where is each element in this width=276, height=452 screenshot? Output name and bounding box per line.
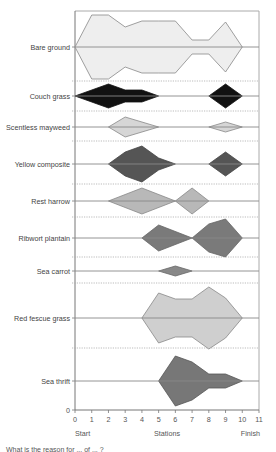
x-tick-label: 0 — [73, 415, 77, 424]
species-label: Couch grass — [30, 92, 71, 101]
x-tick-label: 7 — [190, 415, 194, 424]
x-tick-label: 8 — [207, 415, 211, 424]
kite-diagram: Bare groundCouch grassScentless mayweedY… — [0, 0, 276, 452]
species-label: Sea carrot — [37, 267, 70, 276]
x-tick-label: 5 — [157, 415, 161, 424]
species-label: Red fescue grass — [14, 314, 70, 323]
x-tick-label: 3 — [123, 415, 127, 424]
species-label: Bare ground — [30, 43, 70, 52]
x-tick-label: 10 — [238, 415, 246, 424]
x-start-label: Start — [75, 429, 90, 438]
x-end-label: Finish — [241, 429, 260, 438]
x-tick-label: 1 — [90, 415, 94, 424]
x-tick-label: 9 — [224, 415, 228, 424]
x-tick-label: 6 — [173, 415, 177, 424]
species-label: Scentless mayweed — [6, 123, 70, 132]
x-axis-title: Stations — [154, 429, 180, 438]
y-zero-label: 0 — [66, 406, 70, 415]
species-label: Sea thrift — [41, 377, 70, 386]
x-tick-label: 4 — [140, 415, 144, 424]
species-label: Rest harrow — [31, 197, 71, 206]
species-label: Ribwort plantain — [18, 234, 70, 243]
x-tick-label: 2 — [106, 415, 110, 424]
x-tick-label: 11 — [255, 415, 262, 424]
species-label: Yellow composite — [15, 160, 70, 169]
question-caption: What is the reason for ... of ... ? — [6, 446, 104, 452]
